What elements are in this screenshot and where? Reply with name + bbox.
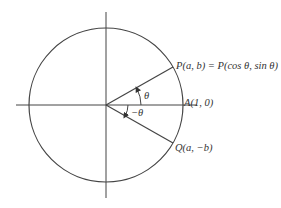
- point-a-label: A(1, 0): [184, 98, 213, 109]
- point-q-label: Q(a, −b): [175, 143, 212, 154]
- point-p-label: P(a, b) = P(cos θ, sin θ): [176, 61, 278, 72]
- neg-theta-label: −θ: [131, 108, 143, 119]
- ray-op: [106, 67, 173, 105]
- theta-arc: [137, 89, 141, 105]
- theta-label: θ: [144, 91, 149, 102]
- neg-theta-arc: [125, 105, 128, 116]
- unit-circle-diagram: [0, 0, 281, 208]
